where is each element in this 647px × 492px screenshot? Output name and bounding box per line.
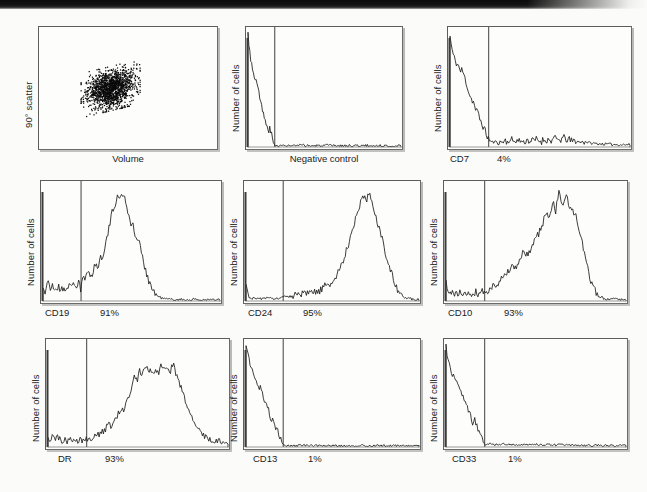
xlabel-scatter: Volume — [38, 153, 218, 164]
histogram-trace — [443, 180, 628, 304]
xlabel-negative-control: Negative control — [245, 153, 403, 164]
panel-scatter — [38, 26, 218, 150]
ylabel-negative-control: Number of cells — [231, 38, 241, 132]
percent-cd13: 1% — [308, 453, 322, 464]
ylabel-cd10: Number of cells — [429, 192, 439, 286]
xlabel-cd7: CD7 — [450, 153, 469, 164]
percent-cd10: 93% — [504, 307, 523, 318]
xlabel-cd19: CD19 — [45, 307, 69, 318]
panel-cd33 — [443, 338, 628, 450]
panel-negative-control — [245, 26, 403, 150]
panel-cd19 — [40, 180, 222, 304]
percent-cd19: 91% — [100, 307, 119, 318]
histogram-trace — [243, 180, 421, 304]
histogram-trace — [243, 338, 421, 450]
ylabel-cd7: Number of cells — [433, 38, 443, 132]
histogram-trace — [447, 26, 632, 150]
scatter-dots — [38, 26, 218, 150]
panel-cd10 — [443, 180, 628, 304]
ylabel-dr: Number of cells — [31, 348, 41, 442]
xlabel-cd13: CD13 — [253, 453, 277, 464]
xlabel-cd24: CD24 — [248, 307, 272, 318]
ylabel-cd19: Number of cells — [26, 192, 36, 286]
percent-cd33: 1% — [508, 453, 522, 464]
histogram-trace — [245, 26, 403, 150]
panel-cd13 — [243, 338, 421, 450]
ylabel-cd13: Number of cells — [229, 348, 239, 442]
figure-canvas: 90° scatter Volume Number of cells Negat… — [0, 0, 647, 492]
histogram-trace — [40, 180, 222, 304]
histogram-trace — [45, 338, 230, 450]
xlabel-dr: DR — [58, 453, 72, 464]
percent-cd24: 95% — [303, 307, 322, 318]
xlabel-cd33: CD33 — [452, 453, 476, 464]
percent-dr: 93% — [105, 453, 124, 464]
ylabel-cd24: Number of cells — [229, 192, 239, 286]
panel-cd7 — [447, 26, 632, 150]
histogram-trace — [443, 338, 628, 450]
ylabel-cd33: Number of cells — [429, 348, 439, 442]
percent-cd7: 4% — [497, 153, 511, 164]
xlabel-cd10: CD10 — [448, 307, 472, 318]
ylabel-scatter: 90° scatter — [24, 58, 34, 128]
panel-dr — [45, 338, 230, 450]
panel-cd24 — [243, 180, 421, 304]
